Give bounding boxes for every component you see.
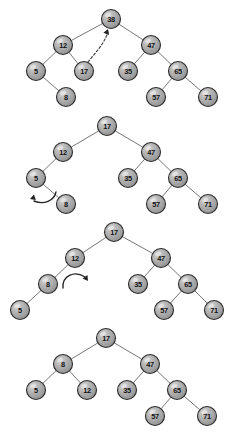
tree-edge <box>161 397 171 409</box>
tree-node: 35 <box>129 275 148 294</box>
node-label: 65 <box>174 67 182 76</box>
node-label: 5 <box>34 174 38 183</box>
tree-edge <box>144 265 154 277</box>
tree-node: 71 <box>205 301 224 320</box>
node-label: 12 <box>59 41 67 50</box>
tree-edge <box>114 343 142 359</box>
tree-edge <box>69 52 78 63</box>
tree-edge <box>71 131 99 147</box>
tree-edge <box>119 24 143 40</box>
node-label: 57 <box>152 200 160 209</box>
tree-node: 57 <box>146 407 165 426</box>
node-label: 57 <box>160 306 168 315</box>
node-label: 71 <box>204 93 212 102</box>
node-label: 12 <box>59 148 67 157</box>
tree-edge <box>83 237 106 252</box>
node-label: 8 <box>64 93 68 102</box>
tree-node: 8 <box>57 195 76 214</box>
tree-edge <box>122 237 152 254</box>
tree-node: 35 <box>119 169 138 188</box>
node-label: 38 <box>107 15 115 24</box>
tree-node: 8 <box>57 88 76 107</box>
tree-edge <box>69 371 80 383</box>
node-label: 57 <box>152 93 160 102</box>
node-label: 5 <box>34 67 38 76</box>
node-label: 35 <box>134 280 142 289</box>
tree-edge <box>71 343 98 359</box>
node-label: 17 <box>110 228 118 237</box>
node-label: 17 <box>102 334 110 343</box>
tree-edge <box>43 52 56 65</box>
node-label: 17 <box>103 122 111 131</box>
node-label: 57 <box>151 412 159 421</box>
tree-diagram-canvas: 3812475173565857711712475356585771171247… <box>0 0 232 437</box>
rotation-curve-icon <box>34 192 56 203</box>
node-label: 71 <box>210 306 218 315</box>
tree-node: 5 <box>27 169 46 188</box>
node-label: 47 <box>146 360 154 369</box>
tree-edge <box>162 78 172 90</box>
left-rotation-at-5-arrow <box>29 192 56 203</box>
tree-edge <box>195 291 208 304</box>
node-label: 35 <box>124 67 132 76</box>
tree-node: 17 <box>105 223 124 242</box>
node-label: 17 <box>80 67 88 76</box>
node-label: 65 <box>184 280 192 289</box>
tree-edge <box>185 184 201 198</box>
node-label: 65 <box>173 386 181 395</box>
tree-node: 47 <box>142 36 161 55</box>
tree-node: 71 <box>198 407 217 426</box>
node-label: 12 <box>83 386 91 395</box>
node-label: 8 <box>64 200 68 209</box>
tree-node: 5 <box>27 381 46 400</box>
tree-node: 71 <box>199 88 218 107</box>
tree-node: 35 <box>118 381 137 400</box>
tree-edge <box>134 52 144 64</box>
tree-edge <box>43 159 56 172</box>
node-label: 35 <box>123 386 131 395</box>
tree-edge <box>162 185 172 197</box>
tree-edge <box>184 396 200 410</box>
arrowhead-icon <box>103 28 110 35</box>
node-label: 47 <box>147 41 155 50</box>
node-label: 71 <box>204 200 212 209</box>
tree-edges-layer <box>27 24 207 410</box>
tree-edge <box>157 371 170 384</box>
node-label: 8 <box>61 360 65 369</box>
node-label: 8 <box>46 280 50 289</box>
tree-edge <box>43 371 56 384</box>
tree-edge <box>158 159 171 172</box>
node-label: 5 <box>34 386 38 395</box>
node-label: 47 <box>147 148 155 157</box>
tree-node: 12 <box>66 249 85 268</box>
tree-node: 8 <box>54 355 73 374</box>
node-label: 71 <box>203 412 211 421</box>
tree-node: 65 <box>169 169 188 188</box>
tree-edge <box>185 77 201 91</box>
tree-node: 17 <box>75 62 94 81</box>
tree-node: 57 <box>155 301 174 320</box>
tree-node: 65 <box>168 381 187 400</box>
tree-node: 8 <box>39 275 58 294</box>
node-label: 47 <box>157 254 165 263</box>
tree-node: 65 <box>179 275 198 294</box>
tree-node: 5 <box>27 62 46 81</box>
tree-nodes-layer: 3812475173565857711712475356585771171247… <box>11 10 224 426</box>
bst-rotation-diagram: 3812475173565857711712475356585771171247… <box>0 0 232 437</box>
tree-node: 17 <box>98 117 117 136</box>
tree-edge <box>134 159 144 171</box>
tree-node: 57 <box>147 195 166 214</box>
tree-edge <box>43 77 59 91</box>
tree-node: 47 <box>152 249 171 268</box>
node-label: 65 <box>174 174 182 183</box>
tree-edge <box>43 184 59 198</box>
tree-node: 38 <box>102 10 121 29</box>
tree-edge <box>170 291 181 303</box>
promote-17-to-root-arrow <box>88 28 111 62</box>
dashed-curve-icon <box>88 32 108 62</box>
node-label: 35 <box>124 174 132 183</box>
tree-edge <box>158 52 171 65</box>
tree-edge <box>55 265 68 278</box>
tree-node: 35 <box>119 62 138 81</box>
tree-edge <box>168 265 181 278</box>
